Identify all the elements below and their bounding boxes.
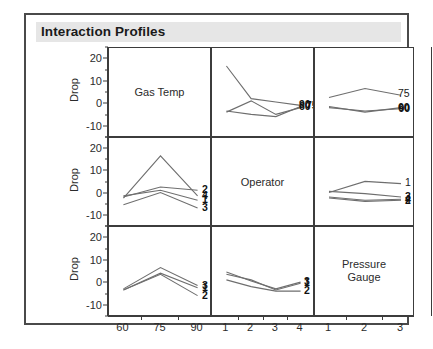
profile-lines bbox=[109, 227, 211, 316]
series-end-label: 3 bbox=[202, 203, 208, 212]
profile-lines bbox=[109, 138, 211, 226]
x-tick-label: 75 bbox=[153, 321, 165, 333]
x-axis-col-2: 123 bbox=[314, 316, 414, 338]
x-tick-mark bbox=[382, 316, 383, 320]
x-tick-label: 90 bbox=[190, 321, 202, 333]
x-tick-mark bbox=[346, 316, 347, 320]
x-tick-label: 1 bbox=[222, 321, 228, 333]
y-axis-row-0: Drop20100-10 bbox=[50, 47, 108, 137]
y-tick-label: 20 bbox=[90, 231, 102, 243]
profile-cell-r1-c1[interactable]: Operator bbox=[211, 137, 314, 226]
series-line bbox=[123, 273, 197, 290]
profile-cell-r1-c0[interactable]: 2413 bbox=[108, 137, 211, 226]
y-tick-label: 0 bbox=[96, 97, 102, 109]
factor-name-line1: Pressure bbox=[315, 258, 413, 271]
x-axis-rail bbox=[108, 316, 211, 317]
series-line bbox=[123, 274, 197, 295]
x-axis-col-0: 607590 bbox=[108, 316, 211, 338]
right-axis-rail bbox=[431, 47, 432, 316]
y-tick-label: 0 bbox=[96, 276, 102, 288]
x-tick-label: 3 bbox=[272, 321, 278, 333]
series-line bbox=[329, 191, 401, 197]
factor-name-label: Operator bbox=[212, 175, 313, 188]
x-tick-mark bbox=[287, 316, 288, 320]
x-axis-col-1: 1234 bbox=[211, 316, 314, 338]
y-axis-title: Drop bbox=[68, 60, 80, 120]
profile-cell-r2-c0[interactable]: 312 bbox=[108, 226, 211, 316]
y-tick-label: 10 bbox=[90, 254, 102, 266]
series-end-label: 90 bbox=[399, 104, 411, 113]
y-axis-title: Drop bbox=[68, 239, 80, 299]
x-tick-label: 1 bbox=[325, 321, 331, 333]
series-line bbox=[123, 193, 197, 209]
series-line bbox=[329, 181, 401, 192]
x-tick-mark bbox=[141, 316, 142, 320]
y-tick-label: 10 bbox=[90, 75, 102, 87]
x-tick-mark bbox=[238, 316, 239, 320]
x-axis-rail bbox=[314, 316, 414, 317]
series-line bbox=[329, 108, 401, 111]
profile-cell-r0-c2[interactable]: 756090 bbox=[314, 47, 414, 137]
series-end-label: 2 bbox=[304, 286, 310, 295]
x-tick-label: 2 bbox=[361, 321, 367, 333]
profile-cell-r2-c1[interactable]: 312 bbox=[211, 226, 314, 316]
profile-cell-r0-c1[interactable]: 907560 bbox=[211, 47, 314, 137]
profile-lines bbox=[212, 227, 314, 316]
y-tick-label: 0 bbox=[96, 187, 102, 199]
y-axis-row-2: Drop20100-10 bbox=[50, 226, 108, 316]
series-end-label: 2 bbox=[405, 196, 411, 205]
series-line bbox=[226, 274, 300, 290]
profile-lines bbox=[212, 48, 314, 137]
y-tick-label: 10 bbox=[90, 164, 102, 176]
factor-name-line2: Gauge bbox=[315, 271, 413, 284]
profile-cell-r2-c2[interactable]: PressureGauge bbox=[314, 226, 414, 316]
profile-cell-r0-c0[interactable]: Gas Temp bbox=[108, 47, 211, 137]
series-line bbox=[329, 89, 401, 98]
y-axis-row-1: Drop20100-10 bbox=[50, 137, 108, 226]
series-line bbox=[226, 66, 300, 105]
series-end-label: 2 bbox=[202, 291, 208, 300]
y-tick-label: -10 bbox=[86, 209, 102, 221]
series-line bbox=[123, 190, 197, 200]
y-tick-label: -10 bbox=[86, 299, 102, 311]
y-tick-label: 20 bbox=[90, 52, 102, 64]
series-line bbox=[123, 156, 197, 198]
y-tick-label: -10 bbox=[86, 120, 102, 132]
x-tick-label: 2 bbox=[247, 321, 253, 333]
interaction-profiles-report: Interaction Profiles Drop20100-10Drop201… bbox=[24, 13, 409, 325]
factor-name-label: Gas Temp bbox=[109, 86, 210, 99]
x-tick-label: 3 bbox=[397, 321, 403, 333]
x-tick-label: 4 bbox=[297, 321, 303, 333]
x-tick-label: 60 bbox=[116, 321, 128, 333]
series-end-label: 60 bbox=[299, 102, 311, 111]
x-tick-mark bbox=[263, 316, 264, 320]
y-axis-title: Drop bbox=[68, 150, 80, 210]
factor-name-label: PressureGauge bbox=[315, 258, 413, 284]
x-tick-mark bbox=[178, 316, 179, 320]
y-tick-label: 20 bbox=[90, 142, 102, 154]
series-end-label: 1 bbox=[405, 178, 411, 187]
interaction-matrix: Drop20100-10Drop20100-10Drop20100-10Gas … bbox=[26, 15, 411, 327]
profile-lines bbox=[315, 138, 414, 226]
series-end-label: 75 bbox=[398, 89, 410, 98]
profile-cell-r1-c2[interactable]: 1342 bbox=[314, 137, 414, 226]
